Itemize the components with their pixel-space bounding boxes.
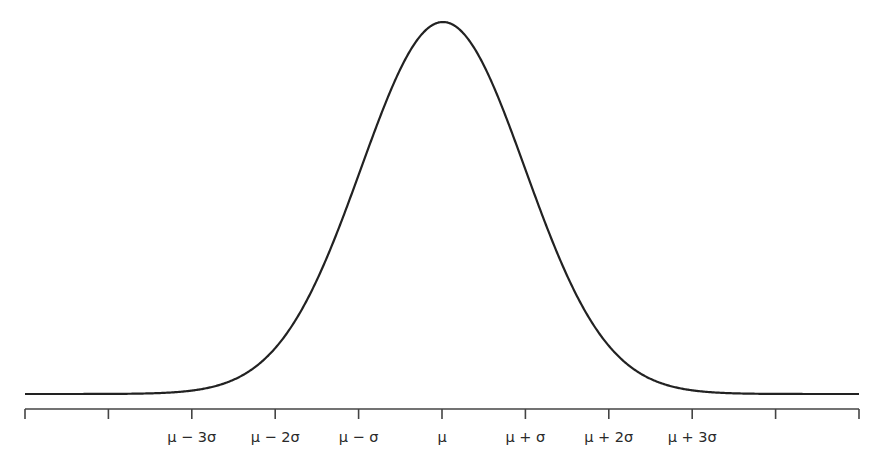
x-axis-tick-label: μ − σ — [339, 429, 379, 445]
x-axis-tick-label: μ + 2σ — [584, 429, 633, 445]
x-axis-tick-labels: μ − 3σμ − 2σμ − σμμ + σμ + 2σμ + 3σ — [167, 429, 716, 445]
normal-distribution-chart: μ − 3σμ − 2σμ − σμμ + σμ + 2σμ + 3σ — [0, 0, 884, 470]
x-axis-tick-label: μ — [437, 429, 446, 445]
x-axis-tick-label: μ + 3σ — [668, 429, 717, 445]
bell-curve — [25, 22, 859, 394]
x-axis-tick-label: μ − 2σ — [251, 429, 300, 445]
x-axis-ticks — [25, 409, 859, 419]
x-axis-tick-label: μ + σ — [506, 429, 546, 445]
x-axis-tick-label: μ − 3σ — [167, 429, 216, 445]
